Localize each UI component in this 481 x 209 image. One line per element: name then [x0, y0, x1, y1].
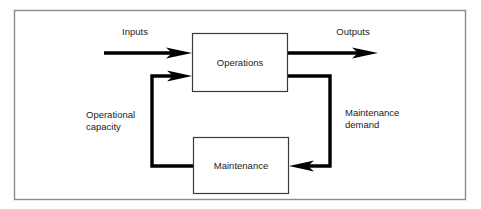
operational-capacity-label-line2: capacity [86, 121, 121, 132]
maintenance-demand-label-line2: demand [345, 119, 379, 130]
maintenance-box-label: Maintenance [214, 160, 268, 171]
operations-box-label: Operations [217, 57, 264, 68]
diagram-canvas: Operations Maintenance Inputs Outputs Op… [0, 0, 481, 209]
inputs-label: Inputs [122, 26, 148, 37]
process-flow-diagram: Operations Maintenance Inputs Outputs Op… [0, 0, 481, 209]
maintenance-demand-label-line1: Maintenance [345, 107, 399, 118]
operational-capacity-label-line1: Operational [86, 109, 135, 120]
outputs-label: Outputs [336, 26, 370, 37]
